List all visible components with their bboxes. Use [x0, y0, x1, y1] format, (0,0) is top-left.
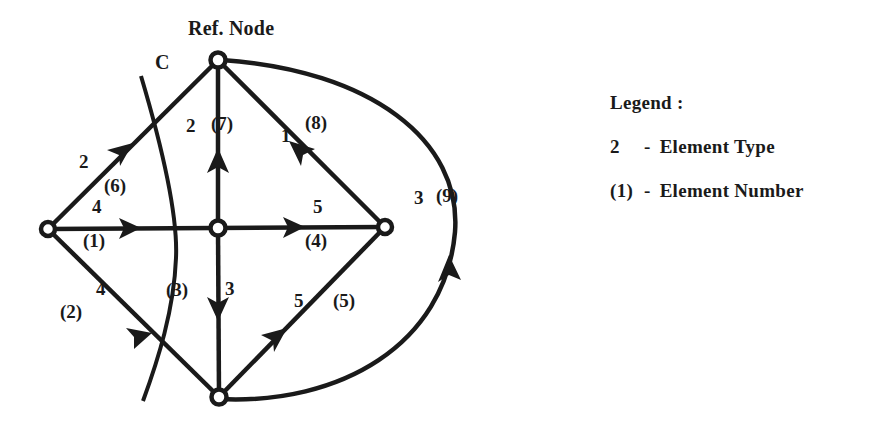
element-3-number-label: (3)	[166, 280, 188, 299]
legend-heading: Legend :	[610, 92, 890, 114]
element-7-center-to-ref	[207, 60, 229, 228]
arrowhead-element-6	[107, 143, 133, 166]
reference-node-label: Ref. Node	[188, 18, 274, 38]
element-3-center-to-bottom	[207, 228, 229, 397]
element-7-type-label: 2	[186, 116, 196, 135]
left-node[interactable]	[41, 222, 55, 236]
legend-desc-element-type: Element Type	[660, 136, 775, 158]
legend: Legend : 2 - Element Type (1) - Element …	[610, 92, 890, 224]
element-8-right-to-ref	[218, 60, 385, 227]
element-9-number-label: (9)	[436, 186, 458, 205]
center-node[interactable]	[211, 221, 226, 236]
element-5-type-label: 5	[294, 291, 304, 310]
element-5-number-label: (5)	[333, 291, 355, 310]
reference-node[interactable]	[211, 53, 226, 68]
element-6-number-label: (6)	[104, 176, 126, 195]
legend-row-element-number: (1) - Element Number	[610, 180, 890, 202]
element-8-number-label: (8)	[305, 113, 327, 132]
element-6-left-to-ref	[48, 60, 218, 229]
element-4-type-label: 5	[313, 197, 323, 216]
right-node[interactable]	[378, 220, 392, 234]
arrowhead-element-2	[126, 328, 152, 349]
arrowhead-element-9	[438, 255, 461, 282]
element-6-type-label: 2	[79, 152, 89, 171]
element-9-type-label: 3	[414, 188, 424, 207]
element-3-type-label: 3	[225, 279, 235, 298]
cut-line-label-c: C	[155, 52, 169, 72]
legend-key-element-number: (1)	[610, 180, 644, 202]
legend-dash-element-number: -	[644, 180, 660, 202]
element-4-number-label: (4)	[305, 231, 327, 250]
legend-desc-element-number: Element Number	[660, 180, 804, 202]
element-2-type-label: 4	[96, 279, 106, 298]
element-1-type-label: 4	[92, 197, 102, 216]
element-1-number-label: (1)	[83, 231, 105, 250]
element-8-type-label: 1	[281, 126, 291, 145]
figure-canvas: Ref. Node C 2 (6) 4 (1) 4 (2) 2 (7) 1 (8…	[0, 0, 894, 423]
element-2-number-label: (2)	[60, 302, 82, 321]
bottom-node[interactable]	[212, 390, 227, 405]
legend-key-element-type: 2	[610, 136, 644, 158]
element-7-number-label: (7)	[211, 114, 233, 133]
legend-row-element-type: 2 - Element Type	[610, 136, 890, 158]
legend-dash-element-type: -	[644, 136, 660, 158]
